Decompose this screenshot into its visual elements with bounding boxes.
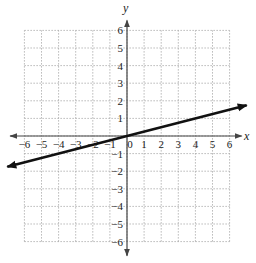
y-tick-label: −1 bbox=[111, 148, 123, 160]
x-tick-label: 2 bbox=[158, 138, 164, 150]
y-tick-label: −2 bbox=[111, 165, 123, 177]
y-tick-label: −3 bbox=[111, 183, 123, 195]
y-tick-label: 6 bbox=[118, 24, 124, 36]
y-tick-label: 1 bbox=[118, 112, 124, 124]
coordinate-plane: −6−5−4−3−2−10123456−6−5−4−3−2−1123456 x … bbox=[0, 0, 256, 263]
x-tick-label: 6 bbox=[227, 138, 233, 150]
x-tick-label: 4 bbox=[193, 138, 199, 150]
x-tick-label: −5 bbox=[36, 138, 48, 150]
x-tick-label: 0 bbox=[127, 138, 133, 150]
x-axis-label: x bbox=[243, 129, 250, 143]
x-tick-label: 3 bbox=[176, 138, 182, 150]
y-tick-label: −5 bbox=[111, 218, 123, 230]
y-tick-label: 5 bbox=[118, 42, 124, 54]
y-tick-label: 2 bbox=[118, 95, 124, 107]
y-tick-label: 4 bbox=[118, 60, 124, 72]
y-axis-label: y bbox=[122, 1, 129, 15]
x-tick-label: −4 bbox=[53, 138, 65, 150]
y-tick-label: −4 bbox=[111, 200, 123, 212]
y-tick-label: 3 bbox=[118, 77, 124, 89]
y-tick-label: −6 bbox=[111, 236, 123, 248]
x-tick-label: −6 bbox=[19, 138, 31, 150]
x-tick-label: 5 bbox=[210, 138, 216, 150]
x-tick-label: 1 bbox=[141, 138, 147, 150]
